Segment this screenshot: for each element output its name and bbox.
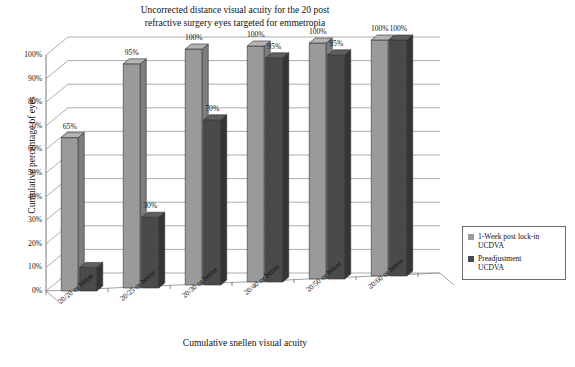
legend-item-series-1: 1-Week post lock-in UCDVA xyxy=(468,232,561,251)
bars-layer xyxy=(61,35,413,291)
legend-label-line-2: UCDVA xyxy=(478,241,504,250)
legend-label-series-1: 1-Week post lock-in UCDVA xyxy=(478,232,539,251)
y-axis-tick-label: 90% xyxy=(10,75,42,83)
legend-label-line-1: 1-Week post lock-in xyxy=(478,232,539,241)
axes xyxy=(46,55,418,295)
y-axis-tick-label: 80% xyxy=(10,98,42,106)
legend-swatch-icon xyxy=(468,256,474,262)
legend-swatch-icon xyxy=(468,234,474,240)
y-axis-tick-label: 20% xyxy=(10,240,42,248)
legend-label-line-2: UCDVA xyxy=(478,263,504,272)
legend-label-series-2: Preadjustment UCDVA xyxy=(478,254,521,273)
bar-value-label: 95% xyxy=(321,39,352,48)
bar-value-label: 30% xyxy=(135,201,166,210)
bar-value-label: 100% xyxy=(178,33,209,42)
bar-value-label: 100% xyxy=(383,24,414,33)
legend-label-line-1: Preadjustment xyxy=(478,254,521,263)
bar-value-label: 95% xyxy=(116,48,147,57)
bar-value-label: 95% xyxy=(259,42,290,51)
y-axis-tick-label: 100% xyxy=(10,51,42,59)
bar-value-label: 65% xyxy=(54,122,85,131)
legend: 1-Week post lock-in UCDVA Preadjustment … xyxy=(462,226,566,280)
bar-value-label: 100% xyxy=(302,27,333,36)
bar-value-label: 70% xyxy=(197,104,228,113)
bar-value-label: 100% xyxy=(240,30,271,39)
y-axis-tick-label: 10% xyxy=(10,263,42,271)
legend-item-series-2: Preadjustment UCDVA xyxy=(468,254,561,273)
y-axis-tick-label: 0% xyxy=(10,287,42,295)
bar-chart: Uncorrected distance visual acuity for t… xyxy=(0,0,575,367)
y-axis-tick-label: 60% xyxy=(10,145,42,153)
y-axis-tick-label: 30% xyxy=(10,216,42,224)
plot-area xyxy=(0,0,575,367)
y-axis-tick-label: 40% xyxy=(10,193,42,201)
y-axis-tick-label: 70% xyxy=(10,122,42,130)
y-axis-tick-label: 50% xyxy=(10,169,42,177)
